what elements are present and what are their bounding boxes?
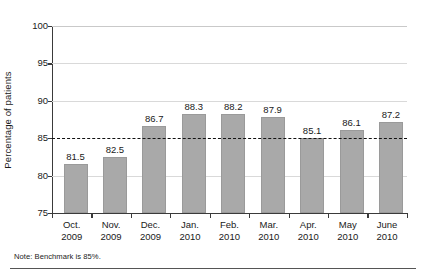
y-tick-label-100: 100 xyxy=(24,21,48,31)
x-tick-mark-7 xyxy=(328,213,329,218)
x-tick-mark-8 xyxy=(367,213,368,218)
x-axis-label-mar-2010-year: 2010 xyxy=(249,231,288,243)
y-axis-tick-labels: 100 95 90 85 80 75 xyxy=(24,0,48,274)
x-axis-label-nov-2009-month: Nov. xyxy=(102,219,121,230)
x-axis-label-may-2010-month: May xyxy=(339,219,357,230)
bar-value-may-2010: 86.1 xyxy=(335,118,369,128)
bar-chart-figure: Percentage of patients 100 95 90 85 80 7… xyxy=(0,0,425,274)
x-axis-label-jan-2010-month: Jan. xyxy=(181,219,199,230)
bar-value-nov-2009: 82.5 xyxy=(98,145,132,155)
gridline-95 xyxy=(52,63,407,64)
chart-note: Note: Benchmark is 85%. xyxy=(14,252,101,262)
bar-mar-2010 xyxy=(261,117,285,214)
x-tick-mark-3 xyxy=(170,213,171,218)
x-axis-label-apr-2010-month: Apr. xyxy=(300,219,317,230)
plot-area: 81.5 82.5 86.7 88.3 88.2 87.9 85.1 86.1 … xyxy=(52,26,407,213)
x-tick-mark-6 xyxy=(289,213,290,218)
y-tick-mark-95 xyxy=(48,63,52,64)
bar-value-mar-2010: 87.9 xyxy=(256,105,290,115)
y-tick-mark-100 xyxy=(48,26,52,27)
bar-nov-2009 xyxy=(103,157,127,213)
x-tick-mark-5 xyxy=(249,213,250,218)
y-tick-label-95: 95 xyxy=(24,58,48,68)
bottom-divider xyxy=(10,268,416,269)
x-axis-label-oct-2009-year: 2009 xyxy=(52,231,91,243)
bar-jan-2010 xyxy=(182,114,206,214)
x-tick-mark-9 xyxy=(407,213,408,218)
y-tick-label-85: 85 xyxy=(24,133,48,143)
y-tick-label-90: 90 xyxy=(24,96,48,106)
x-tick-mark-0 xyxy=(52,213,53,218)
x-tick-mark-4 xyxy=(210,213,211,218)
x-axis-label-apr-2010: Apr. 2010 xyxy=(289,219,328,242)
benchmark-reference-line xyxy=(52,138,407,139)
x-axis-label-nov-2009-year: 2009 xyxy=(91,231,130,243)
y-axis-title-label: Percentage of patients xyxy=(2,71,13,168)
gridline-100 xyxy=(52,26,407,27)
y-axis-title: Percentage of patients xyxy=(0,26,14,213)
x-axis-label-nov-2009: Nov. 2009 xyxy=(91,219,130,242)
x-tick-mark-2 xyxy=(131,213,132,218)
bar-apr-2010 xyxy=(300,138,324,214)
x-axis-label-dec-2009: Dec. 2009 xyxy=(131,219,170,242)
bar-value-feb-2010: 88.2 xyxy=(216,102,250,112)
bar-oct-2009 xyxy=(64,164,88,213)
x-axis-label-june-2010: June 2010 xyxy=(367,219,406,242)
x-axis-label-dec-2009-month: Dec. xyxy=(141,219,161,230)
bar-june-2010 xyxy=(379,122,403,213)
x-axis-label-jan-2010-year: 2010 xyxy=(170,231,209,243)
x-axis-label-jan-2010: Jan. 2010 xyxy=(170,219,209,242)
x-axis-label-feb-2010-year: 2010 xyxy=(210,231,249,243)
bar-value-june-2010: 87.2 xyxy=(374,110,408,120)
x-axis-label-may-2010: May 2010 xyxy=(328,219,367,242)
x-axis-line xyxy=(52,213,408,214)
x-axis-label-feb-2010-month: Feb. xyxy=(220,219,239,230)
x-axis-label-dec-2009-year: 2009 xyxy=(131,231,170,243)
y-tick-mark-80 xyxy=(48,176,52,177)
y-tick-label-80: 80 xyxy=(24,171,48,181)
y-tick-label-75: 75 xyxy=(24,208,48,218)
x-axis-label-oct-2009-month: Oct. xyxy=(63,219,80,230)
bar-value-dec-2009: 86.7 xyxy=(137,114,171,124)
x-axis-label-may-2010-year: 2010 xyxy=(328,231,367,243)
x-axis-label-june-2010-month: June xyxy=(377,219,398,230)
bar-feb-2010 xyxy=(221,114,245,213)
x-axis-label-mar-2010-month: Mar. xyxy=(260,219,278,230)
x-axis-label-june-2010-year: 2010 xyxy=(367,231,406,243)
x-axis-label-apr-2010-year: 2010 xyxy=(289,231,328,243)
x-axis-label-oct-2009: Oct. 2009 xyxy=(52,219,91,242)
x-axis-label-feb-2010: Feb. 2010 xyxy=(210,219,249,242)
x-tick-mark-1 xyxy=(91,213,92,218)
bar-may-2010 xyxy=(340,130,364,213)
x-axis-label-mar-2010: Mar. 2010 xyxy=(249,219,288,242)
y-tick-mark-90 xyxy=(48,101,52,102)
bar-value-jan-2010: 88.3 xyxy=(177,102,211,112)
bar-value-apr-2010: 85.1 xyxy=(295,126,329,136)
bar-value-oct-2009: 81.5 xyxy=(59,152,93,162)
